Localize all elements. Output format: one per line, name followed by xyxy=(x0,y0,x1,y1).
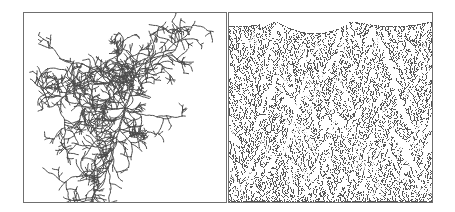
deposition-forest-panel xyxy=(228,12,433,203)
radial-aggregate-panel xyxy=(23,12,227,203)
deposition-forest-image xyxy=(229,13,432,202)
radial-aggregate-image xyxy=(24,13,226,202)
